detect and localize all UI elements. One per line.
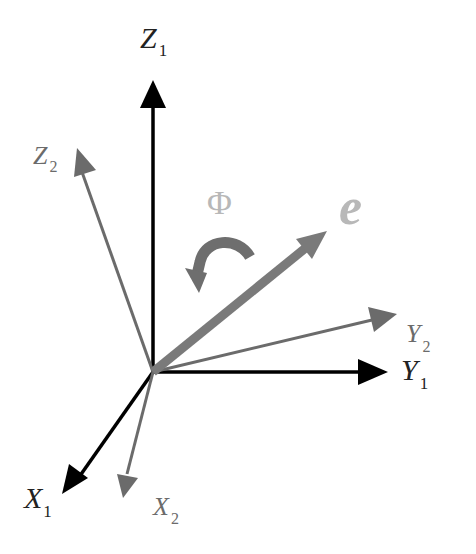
label-y2: Y2 [406, 319, 430, 355]
frame2-z-axis [74, 148, 153, 372]
label-z2: Z2 [33, 141, 57, 175]
rotation-diagram: Z1 Z2 Y2 Y1 X1 X2 Φ e [0, 0, 476, 554]
label-e: e [339, 178, 362, 235]
label-y1: Y1 [401, 353, 428, 393]
frame1-x-axis [62, 372, 153, 494]
label-phi: Φ [207, 184, 232, 221]
frame1-z-axis [140, 80, 166, 372]
label-x1: X1 [23, 481, 52, 521]
rotation-arrow-icon [185, 243, 250, 293]
label-z1: Z1 [140, 21, 167, 60]
frame2-x-axis [117, 372, 153, 498]
label-x2: X2 [152, 492, 179, 527]
